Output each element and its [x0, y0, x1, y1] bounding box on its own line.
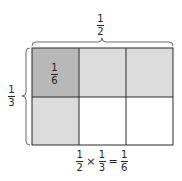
top-fraction-label: 12 — [97, 14, 104, 37]
left-fraction-label: 13 — [8, 85, 15, 108]
eq-fraction-c: 16 — [121, 150, 128, 173]
cell-fraction-label: 16 — [51, 63, 58, 86]
eq-fraction-b: 13 — [99, 150, 106, 173]
equation: 12 × 13 = 16 — [0, 150, 182, 173]
left-brace — [22, 48, 30, 145]
cell-row1-col3 — [126, 48, 173, 97]
eq-fraction-a: 12 — [76, 150, 83, 173]
cell-row2-col1 — [32, 97, 79, 145]
top-brace — [32, 38, 173, 46]
cell-row2-col3 — [126, 97, 173, 145]
times-sign: × — [86, 155, 95, 168]
equals-sign: = — [109, 155, 118, 168]
cell-row2-col2 — [79, 97, 126, 145]
cell-row1-col2 — [79, 48, 126, 97]
